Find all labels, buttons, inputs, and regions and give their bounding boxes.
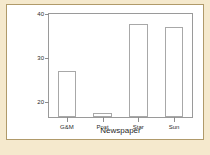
y-axis-tick-label: 40 (37, 11, 44, 17)
y-axis-tick-label: 30 (37, 55, 44, 61)
y-axis-tick (45, 14, 49, 15)
bar-g-m[interactable] (58, 71, 77, 117)
x-axis-tick (103, 117, 104, 122)
y-axis-tick-label: 20 (37, 99, 44, 105)
y-axis-tick (45, 58, 49, 59)
chart-card: 203040G&MPostStarSun Newspaper Sum of Bl… (7, 5, 203, 139)
bar-sun[interactable] (165, 27, 184, 117)
x-axis-tick (138, 117, 139, 122)
x-axis-title: Newspaper (48, 127, 193, 135)
plot-area: 203040G&MPostStarSun (48, 13, 193, 118)
chart-page: 203040G&MPostStarSun Newspaper Sum of Bl… (0, 0, 210, 155)
x-axis-tick (67, 117, 68, 122)
chart-card-frame: 203040G&MPostStarSun Newspaper Sum of Bl… (6, 4, 204, 140)
y-axis-tick (45, 102, 49, 103)
bar-star[interactable] (129, 24, 148, 117)
x-axis-tick (174, 117, 175, 122)
